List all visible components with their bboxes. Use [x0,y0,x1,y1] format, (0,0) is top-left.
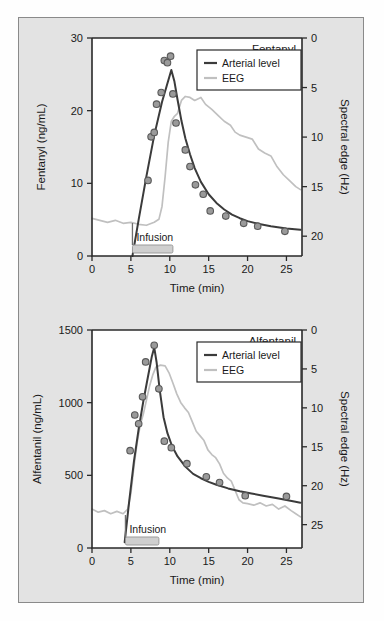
data-point [139,394,146,401]
y2-tick-label: 0 [311,32,317,44]
data-point [283,493,290,500]
data-point [216,479,223,486]
figure-panel: 0510152025Time (min)0102030Fentanyl (ng/… [18,17,364,603]
y2-axis-title: Spectral edge (Hz) [339,391,351,487]
y2-tick-label: 5 [311,363,317,375]
x-tick-label: 25 [280,555,292,567]
legend-label-eeg: EEG [222,364,244,376]
y-tick-label: 1000 [59,397,83,409]
y2-tick-label: 15 [311,181,323,193]
y-axis-title: Alfentanil (ng/mL) [31,394,43,484]
data-point [145,177,152,184]
y2-tick-label: 20 [311,230,323,242]
chart-fentanyl: 0510152025Time (min)0102030Fentanyl (ng/… [19,20,363,312]
y2-tick-label: 20 [311,480,323,492]
y-tick-label: 1500 [59,324,83,336]
data-point [131,412,138,419]
infusion-bar [125,537,158,545]
infusion-label: Infusion [136,231,173,243]
y2-tick-label: 25 [311,519,323,531]
x-tick-label: 0 [89,555,95,567]
data-point [254,223,261,230]
data-point [240,220,247,227]
x-tick-label: 0 [89,263,95,275]
x-tick-label: 15 [203,263,215,275]
y-tick-label: 0 [77,542,83,554]
x-tick-label: 5 [128,263,134,275]
x-tick-label: 10 [164,555,176,567]
data-point [127,447,134,454]
y2-tick-label: 15 [311,441,323,453]
data-point [203,473,210,480]
data-point [135,420,142,427]
alfentanil-chart-svg: 0510152025Time (min)050010001500Alfentan… [19,312,365,604]
x-tick-label: 20 [241,263,253,275]
legend-box [197,50,301,90]
legend-label-arterial: Arterial level [222,57,280,69]
x-axis-title: Time (min) [170,574,225,586]
y-axis-title: Fentanyl (ng/mL) [35,103,47,190]
data-point [282,228,289,235]
y2-axis-title: Spectral edge (Hz) [339,99,351,195]
x-tick-label: 20 [241,555,253,567]
data-point [142,359,149,366]
data-point [151,342,158,349]
infusion-bar [132,245,172,253]
data-point [187,163,194,170]
y2-tick-label: 10 [311,131,323,143]
data-point [167,53,174,60]
y-tick-label: 30 [71,32,83,44]
legend-label-eeg: EEG [222,72,244,84]
y-tick-label: 0 [77,250,83,262]
y2-tick-label: 5 [311,82,317,94]
y2-tick-label: 10 [311,402,323,414]
data-point [153,101,160,108]
legend-box [197,342,301,382]
x-tick-label: 10 [164,263,176,275]
infusion-label: Infusion [129,523,166,535]
data-point [242,492,249,499]
x-axis-title: Time (min) [170,282,225,294]
y2-tick-label: 0 [311,324,317,336]
data-point [182,147,189,154]
data-point [207,208,214,215]
data-point [151,129,158,136]
data-point [161,438,168,445]
figure-root: 0510152025Time (min)0102030Fentanyl (ng/… [0,0,384,621]
data-point [200,191,207,198]
chart-alfentanil: 0510152025Time (min)050010001500Alfentan… [19,312,363,604]
y-tick-label: 20 [71,105,83,117]
data-point [168,444,175,451]
data-point [184,460,191,467]
data-point [164,59,171,66]
x-tick-label: 15 [203,555,215,567]
data-point [192,181,199,188]
fentanyl-chart-svg: 0510152025Time (min)0102030Fentanyl (ng/… [19,20,365,312]
y-tick-label: 10 [71,177,83,189]
data-point [170,91,177,98]
data-point [158,89,165,96]
data-point [173,120,180,127]
x-tick-label: 5 [128,555,134,567]
data-point [156,386,163,393]
x-tick-label: 25 [280,263,292,275]
y-tick-label: 500 [65,469,83,481]
data-point [222,213,229,220]
legend-label-arterial: Arterial level [222,349,280,361]
